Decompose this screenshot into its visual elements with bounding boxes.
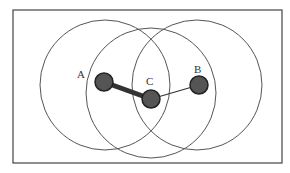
node-c	[142, 90, 160, 108]
node-b	[190, 76, 208, 94]
node-c-label: C	[146, 75, 153, 87]
node-a-label: A	[77, 68, 85, 80]
node-a	[95, 73, 113, 91]
node-b-label: B	[194, 63, 201, 75]
diagram-canvas: A C B	[0, 0, 290, 173]
